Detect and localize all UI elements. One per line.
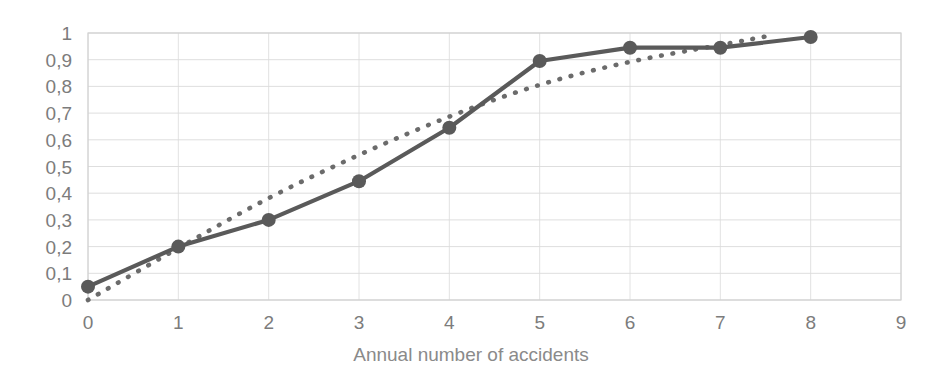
data-point-marker (533, 54, 547, 68)
y-axis-tick-label: 0,2 (46, 237, 72, 258)
data-point-marker (804, 30, 818, 44)
x-axis-tick-label: 5 (534, 312, 545, 333)
y-axis-tick-label: 0,1 (46, 263, 72, 284)
data-point-marker (623, 41, 637, 55)
y-axis-tick-label: 0 (61, 290, 72, 311)
chart-container: 00,10,20,30,40,50,60,70,80,91 0123456789… (0, 0, 942, 381)
y-axis-tick-label: 0,7 (46, 103, 72, 124)
x-axis-tick-label: 3 (354, 312, 365, 333)
data-point-marker (713, 41, 727, 55)
x-axis-tick-label: 1 (173, 312, 184, 333)
x-axis-tick-label: 2 (263, 312, 274, 333)
data-point-marker (442, 121, 456, 135)
data-point-marker (171, 240, 185, 254)
y-axis-tick-labels: 00,10,20,30,40,50,60,70,80,91 (46, 23, 73, 311)
y-axis-tick-label: 0,9 (46, 50, 72, 71)
y-axis-tick-label: 0,4 (46, 183, 73, 204)
x-axis-tick-label: 6 (625, 312, 636, 333)
x-axis-tick-label: 7 (715, 312, 726, 333)
x-axis-tick-label: 8 (805, 312, 816, 333)
x-axis-tick-label: 9 (896, 312, 907, 333)
x-axis-title: Annual number of accidents (353, 344, 589, 365)
x-axis-tick-label: 4 (444, 312, 455, 333)
y-axis-tick-label: 0,5 (46, 157, 72, 178)
data-point-marker (262, 213, 276, 227)
y-axis-tick-label: 0,3 (46, 210, 72, 231)
data-point-marker (352, 174, 366, 188)
y-axis-tick-label: 0,8 (46, 76, 72, 97)
line-chart: 00,10,20,30,40,50,60,70,80,91 0123456789… (0, 0, 942, 381)
y-axis-tick-label: 0,6 (46, 130, 72, 151)
y-axis-tick-label: 1 (61, 23, 72, 44)
x-axis-tick-label: 0 (83, 312, 94, 333)
data-point-marker (81, 280, 95, 294)
chart-background (0, 0, 942, 381)
